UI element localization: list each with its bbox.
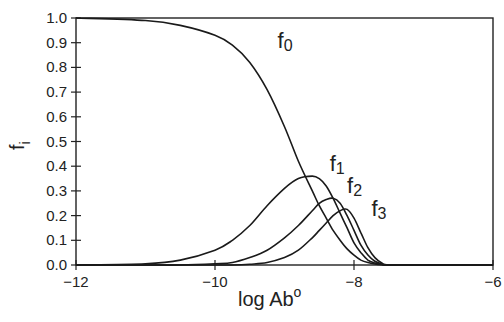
y-axis-title: fi bbox=[6, 141, 33, 150]
chart: 0.00.10.20.30.40.50.60.70.80.91.0 −12−10… bbox=[0, 0, 504, 322]
y-tick-label: 0.2 bbox=[46, 207, 67, 224]
y-tick-label: 0.4 bbox=[46, 157, 67, 174]
curve-f1 bbox=[76, 176, 493, 265]
label-f0: f0 bbox=[278, 28, 293, 54]
y-tick-label: 0.7 bbox=[46, 83, 67, 100]
x-tick-label: −6 bbox=[484, 273, 501, 290]
y-tick-label: 1.0 bbox=[46, 9, 67, 26]
y-tick-label: 0.9 bbox=[46, 34, 67, 51]
label-f1: f1 bbox=[330, 151, 345, 177]
y-tick-label: 0.3 bbox=[46, 182, 67, 199]
curve-f0 bbox=[76, 18, 493, 265]
plot-border bbox=[76, 18, 493, 265]
y-tick-label: 0.0 bbox=[46, 256, 67, 273]
x-axis-title: log Abo bbox=[238, 284, 302, 310]
curve-labels: f0f1f2f3 bbox=[278, 28, 387, 222]
y-tick-label: 0.8 bbox=[46, 58, 67, 75]
x-tick-label: −12 bbox=[63, 273, 88, 290]
y-tick-label: 0.6 bbox=[46, 108, 67, 125]
y-tick-label: 0.5 bbox=[46, 133, 67, 150]
plot-frame bbox=[76, 18, 493, 265]
curves bbox=[76, 18, 493, 265]
curve-f2 bbox=[76, 198, 493, 265]
label-f3: f3 bbox=[371, 196, 386, 222]
y-tick-label: 0.1 bbox=[46, 231, 67, 248]
x-tick-label: −8 bbox=[345, 273, 362, 290]
label-f2: f2 bbox=[347, 173, 362, 199]
x-tick-label: −10 bbox=[202, 273, 227, 290]
